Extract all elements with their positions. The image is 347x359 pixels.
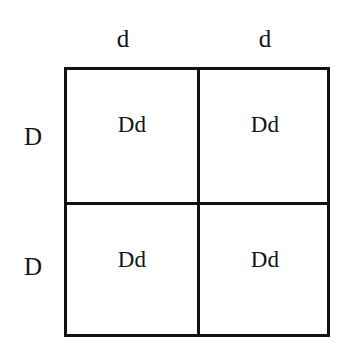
punnett-grid: Dd Dd Dd Dd [64,67,330,337]
grid-cell-row1-col1: Dd [200,205,330,337]
grid-cell-row0-col0: Dd [67,70,197,202]
column-header-1: d [235,22,295,56]
row-header-0: D [8,120,58,154]
grid-cell-label: Dd [67,112,197,138]
grid-cell-label: Dd [200,112,330,138]
row-header-1: D [8,250,58,284]
punnett-square-diagram: d d D D Dd Dd Dd Dd [0,0,347,359]
column-header-0: d [93,22,153,56]
grid-cell-label: Dd [200,247,330,273]
grid-cell-label: Dd [67,247,197,273]
grid-cell-row0-col1: Dd [200,70,330,202]
grid-cell-row1-col0: Dd [67,205,197,337]
